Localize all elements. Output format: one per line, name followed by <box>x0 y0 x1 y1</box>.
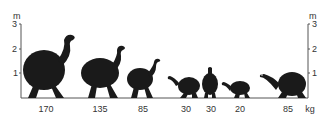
moa-silhouette-3 <box>127 59 160 98</box>
weight-label-7: 85 <box>283 104 293 114</box>
weight-label-5: 30 <box>206 104 216 114</box>
weight-label-1: 170 <box>38 104 53 114</box>
moa-silhouette-5 <box>202 67 218 98</box>
moa-silhouette-1 <box>23 35 75 98</box>
right-tick-1: 1 <box>312 69 317 78</box>
left-tick-2: 2 <box>12 45 17 54</box>
weight-label-3: 85 <box>138 104 148 114</box>
moa-size-diagram <box>0 0 323 118</box>
left-tick-3: 3 <box>12 20 17 29</box>
kg-unit-label: kg <box>305 104 315 114</box>
moa-silhouette-4 <box>168 76 200 98</box>
moa-silhouette-6 <box>222 81 250 98</box>
weight-label-4: 30 <box>181 104 191 114</box>
moa-silhouette-2 <box>81 46 125 98</box>
right-tick-3: 3 <box>312 20 317 29</box>
left-tick-1: 1 <box>13 69 18 78</box>
moa-silhouette-7 <box>260 72 306 98</box>
right-tick-2: 2 <box>312 45 317 54</box>
weight-label-6: 20 <box>235 104 245 114</box>
weight-label-2: 135 <box>92 104 107 114</box>
